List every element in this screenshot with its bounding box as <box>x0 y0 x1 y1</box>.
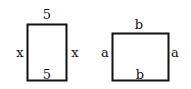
rectangle-1-bottom-label: 5 <box>43 67 51 82</box>
rectangle-2-group: b b a a <box>101 17 179 82</box>
rectangle-2-top-label: b <box>135 17 143 32</box>
rectangle-1-left-label: x <box>16 45 24 60</box>
rectangle-2-left-label: a <box>101 45 109 60</box>
rectangle-2-bottom-label: b <box>136 67 144 82</box>
rectangle-2-right-label: a <box>171 45 179 60</box>
rectangles-diagram: 5 5 x x b b a a <box>0 0 191 89</box>
rectangle-1-group: 5 5 x x <box>16 7 79 82</box>
rectangle-1-top-label: 5 <box>43 7 51 22</box>
rectangle-1-right-label: x <box>71 45 79 60</box>
